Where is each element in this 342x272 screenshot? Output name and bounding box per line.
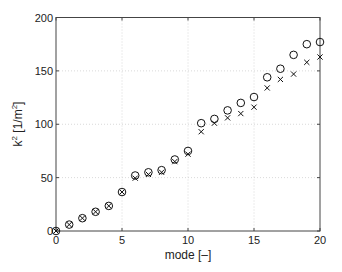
cross-marker: [238, 111, 243, 116]
x-tick-label: 5: [119, 234, 125, 246]
circle-marker: [197, 119, 205, 127]
y-axis-label-unit: [1/m: [11, 109, 25, 136]
cross-marker: [291, 71, 296, 76]
cross-marker: [119, 189, 124, 194]
cross-marker: [106, 203, 111, 208]
x-tick-label: 20: [314, 234, 326, 246]
circle-marker: [224, 107, 232, 115]
x-axis-label: mode [–]: [165, 248, 212, 262]
circle-marker: [237, 99, 245, 107]
circle-marker: [211, 115, 219, 123]
circle-marker: [263, 73, 271, 81]
y-tick-labels: 050100150200: [35, 12, 53, 238]
x-tick-label: 15: [248, 234, 260, 246]
cross-marker: [225, 115, 230, 120]
grid-lines: [56, 18, 320, 232]
y-axis-label-unit-close: ]: [11, 102, 25, 105]
cross-marker: [199, 129, 204, 134]
series-circles: [52, 38, 324, 235]
y-tick-label: 150: [35, 65, 53, 77]
cross-marker: [80, 216, 85, 221]
y-axis-label: k2 [1/m2]: [10, 102, 25, 147]
y-tick-label: 50: [41, 172, 53, 184]
cross-marker: [265, 85, 270, 90]
x-tick-label: 10: [182, 234, 194, 246]
cross-marker: [304, 60, 309, 65]
scatter-chart: 05101520 050100150200 mode [–] k2 [1/m2]: [0, 0, 342, 272]
cross-marker: [278, 77, 283, 82]
circle-marker: [290, 51, 298, 59]
y-tick-label: 100: [35, 118, 53, 130]
circle-marker: [277, 65, 285, 73]
cross-marker: [133, 176, 138, 181]
circle-marker: [303, 40, 311, 48]
circle-marker: [250, 93, 258, 101]
cross-marker: [93, 209, 98, 214]
x-tick-label: 0: [53, 234, 59, 246]
y-tick-label: 200: [35, 12, 53, 24]
cross-marker: [67, 222, 72, 227]
x-tick-labels: 05101520: [53, 234, 326, 246]
